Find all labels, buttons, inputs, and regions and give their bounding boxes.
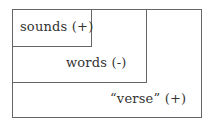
words-label: words (-): [66, 55, 127, 70]
sounds-label: sounds (+): [20, 19, 93, 34]
verse-label: “verse” (+): [110, 91, 186, 106]
